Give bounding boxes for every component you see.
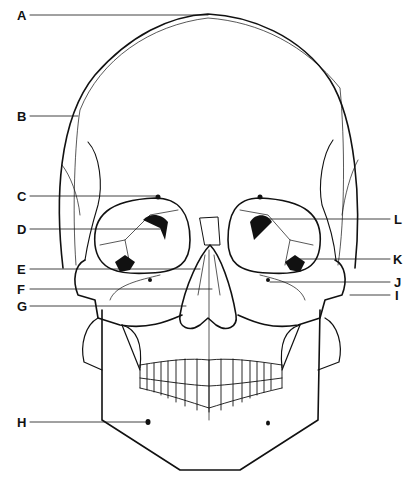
supraorbital-foramen-left xyxy=(156,195,161,200)
infraorbital-foramen-left xyxy=(148,278,152,282)
infraorbital-foramen-right xyxy=(266,278,270,282)
label-E: E xyxy=(17,263,26,276)
inferior-orbital-fissure-left xyxy=(115,255,135,272)
cranium-outline xyxy=(59,14,357,268)
orbit-left xyxy=(95,198,190,273)
label-J: J xyxy=(394,276,401,289)
mental-foramen-right xyxy=(266,421,270,426)
label-C: C xyxy=(17,190,26,203)
label-H: H xyxy=(17,416,26,429)
teeth xyxy=(140,359,282,412)
mental-foramen-left xyxy=(146,419,151,425)
superior-orbital-fissure-left xyxy=(143,215,168,240)
temporal-line-right xyxy=(320,140,336,260)
label-A: A xyxy=(17,9,26,22)
label-D: D xyxy=(17,223,26,236)
label-L: L xyxy=(394,213,402,226)
skull-diagram xyxy=(0,0,413,492)
superior-orbital-fissure-right xyxy=(250,215,272,240)
label-B: B xyxy=(17,110,26,123)
orbit-right xyxy=(228,198,320,273)
nasal-aperture xyxy=(180,245,236,328)
temporal-line-left xyxy=(85,142,100,260)
supraorbital-foramen-right xyxy=(258,195,263,200)
label-I: I xyxy=(395,289,399,302)
inferior-orbital-fissure-right xyxy=(285,255,305,272)
nasal-bones xyxy=(200,217,220,245)
label-F: F xyxy=(17,283,25,296)
label-K: K xyxy=(393,253,402,266)
label-G: G xyxy=(17,300,27,313)
